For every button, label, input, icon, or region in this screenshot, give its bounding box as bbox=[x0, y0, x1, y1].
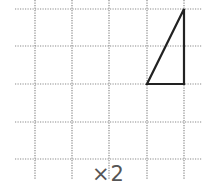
scale-factor-label: ×2 bbox=[92, 162, 125, 186]
grid-diagram bbox=[0, 0, 210, 187]
